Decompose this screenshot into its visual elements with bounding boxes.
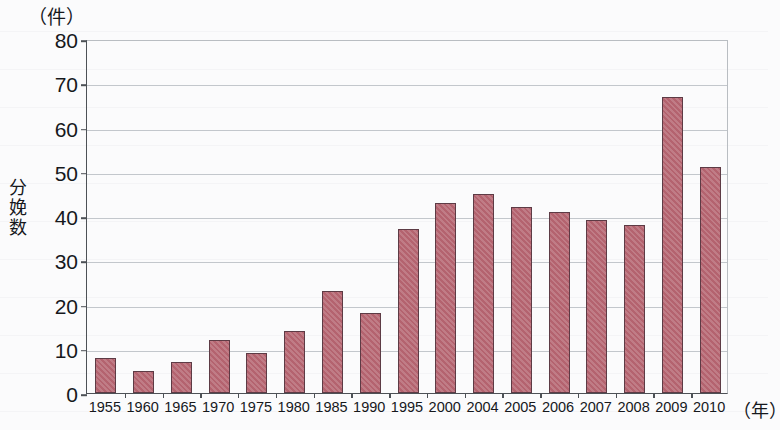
x-tick-mark	[276, 393, 277, 398]
bar-1975	[246, 353, 267, 393]
x-axis-unit-caption: （年）	[733, 396, 780, 422]
bar-2004	[473, 194, 494, 393]
x-tick-mark	[465, 393, 466, 398]
x-tick-mark	[616, 393, 617, 398]
y-tick-label: 80	[55, 29, 78, 53]
x-axis-labels: 1955196019651970197519801985199019952000…	[86, 399, 728, 423]
bar-2007	[586, 220, 607, 393]
y-tick-label: 50	[55, 162, 78, 186]
x-tick-mark	[578, 393, 579, 398]
x-tick-label-1965: 1965	[164, 399, 196, 415]
x-tick-mark	[653, 393, 654, 398]
x-tick-label-1980: 1980	[278, 399, 310, 415]
bar-2005	[511, 207, 532, 393]
y-axis-title-char-1: 分	[6, 178, 30, 198]
y-tick-label: 40	[55, 206, 78, 230]
x-tick-label-1995: 1995	[391, 399, 423, 415]
y-tick-label: 70	[55, 73, 78, 97]
bar-2006	[549, 212, 570, 393]
x-tick-mark	[163, 393, 164, 398]
y-axis-title-char-3: 数	[6, 218, 30, 238]
x-tick-label-2006: 2006	[542, 399, 574, 415]
x-tick-label-2008: 2008	[617, 399, 649, 415]
y-tick-label: 0	[66, 383, 78, 407]
bar-1970	[209, 340, 230, 393]
bar-1960	[133, 371, 154, 393]
x-tick-mark	[389, 393, 390, 398]
x-tick-label-2005: 2005	[504, 399, 536, 415]
x-tick-mark	[314, 393, 315, 398]
x-tick-label-1975: 1975	[240, 399, 272, 415]
x-tick-mark	[351, 393, 352, 398]
bar-1990	[360, 313, 381, 393]
x-tick-label-1955: 1955	[89, 399, 121, 415]
bar-2009	[662, 97, 683, 393]
y-axis-title-char-2: 娩	[6, 198, 30, 218]
x-tick-label-1960: 1960	[127, 399, 159, 415]
x-tick-label-1970: 1970	[202, 399, 234, 415]
y-axis-unit-caption: （件）	[28, 2, 85, 29]
x-tick-mark	[427, 393, 428, 398]
bar-1985	[322, 291, 343, 393]
bar-1955	[95, 358, 116, 393]
bar-1980	[284, 331, 305, 393]
x-tick-mark	[125, 393, 126, 398]
bar-2000	[435, 203, 456, 393]
bar-2010	[700, 167, 721, 393]
plot-area: 01020304050607080	[86, 40, 728, 394]
x-tick-label-2007: 2007	[580, 399, 612, 415]
x-tick-label-1985: 1985	[315, 399, 347, 415]
x-tick-label-2010: 2010	[693, 399, 725, 415]
bar-2008	[624, 225, 645, 393]
bar-1965	[171, 362, 192, 393]
y-tick-label: 60	[55, 118, 78, 142]
x-tick-mark	[691, 393, 692, 398]
y-tick-label: 20	[55, 295, 78, 319]
x-tick-mark	[502, 393, 503, 398]
bars-container	[87, 41, 727, 393]
x-tick-label-2000: 2000	[429, 399, 461, 415]
x-tick-mark	[540, 393, 541, 398]
bar-1995	[398, 229, 419, 393]
x-tick-label-2009: 2009	[655, 399, 687, 415]
x-tick-mark	[200, 393, 201, 398]
y-tick-label: 10	[55, 339, 78, 363]
y-tick-label: 30	[55, 250, 78, 274]
y-axis-title: 分 娩 数	[6, 178, 30, 238]
x-tick-mark	[238, 393, 239, 398]
x-tick-label-2004: 2004	[466, 399, 498, 415]
x-tick-label-1990: 1990	[353, 399, 385, 415]
y-tick-mark	[81, 394, 87, 396]
